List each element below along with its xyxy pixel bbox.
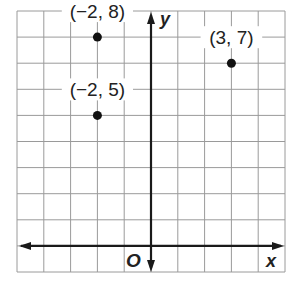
point-group: (−2, 5): [62, 78, 133, 120]
data-point: [93, 111, 102, 120]
data-point: [93, 33, 102, 42]
coordinate-plane: (−2, 8)(−2, 5)(3, 7) x y O: [0, 0, 302, 286]
x-axis-label: x: [265, 251, 277, 271]
origin-label: O: [126, 250, 141, 271]
point-group: (3, 7): [201, 26, 263, 67]
x-axis-arrow-right: [272, 242, 284, 250]
point-label: (3, 7): [209, 27, 253, 48]
data-point: [227, 59, 236, 68]
point-group: (−2, 8): [62, 0, 133, 42]
point-label: (−2, 5): [70, 79, 125, 100]
point-label: (−2, 8): [70, 1, 125, 22]
y-axis-arrow-down: [147, 260, 155, 272]
x-axis-arrow-left: [19, 242, 31, 250]
y-axis-label: y: [159, 9, 171, 29]
y-axis-arrow-up: [147, 12, 155, 24]
